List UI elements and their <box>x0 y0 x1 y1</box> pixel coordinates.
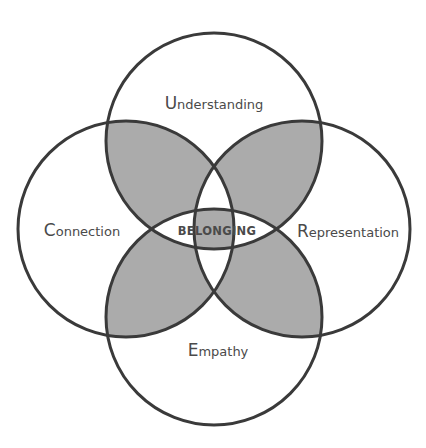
label-empathy: Empathy <box>188 340 249 360</box>
label-belonging: BELONGING <box>178 224 256 238</box>
label-representation: Representation <box>297 221 399 241</box>
label-connection: Connection <box>44 220 120 240</box>
label-understanding: Understanding <box>165 93 264 113</box>
venn-diagram: Understanding Connection Representation … <box>0 0 426 448</box>
